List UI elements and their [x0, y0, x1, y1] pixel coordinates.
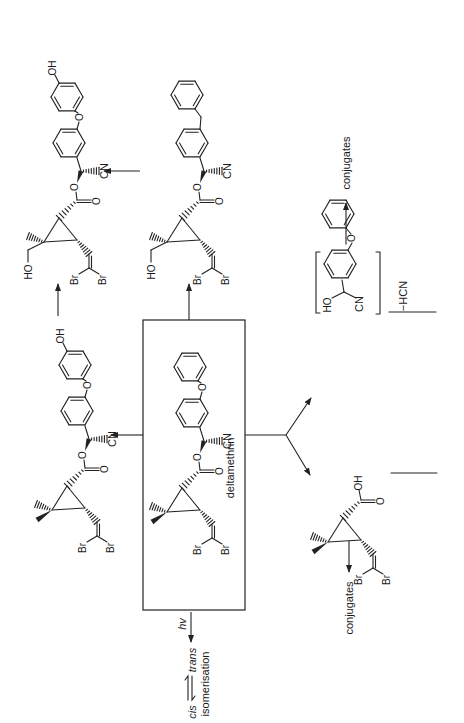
cyclopropane-bond	[167, 240, 200, 242]
aromatic-bond	[193, 95, 199, 106]
ether-bond	[346, 228, 351, 234]
bond	[61, 397, 69, 411]
bond	[348, 264, 356, 278]
vinyl-hashed-bond	[201, 241, 215, 256]
methylene-bond	[195, 109, 201, 117]
hash	[362, 541, 364, 542]
bond	[346, 214, 354, 228]
benzene-ring-2	[322, 200, 354, 228]
bond	[77, 143, 85, 157]
hash	[83, 248, 87, 252]
bond	[85, 411, 93, 425]
hash	[86, 509, 88, 510]
hash	[70, 479, 74, 483]
hash	[194, 474, 196, 476]
arrow-to-cyanohydrin	[286, 398, 311, 435]
metabolic-pathway-diagram: OBrBrOCNO deltamethrin OBrBrOCNOOH OHOBr…	[0, 0, 464, 723]
hash	[82, 470, 83, 471]
hash	[152, 504, 154, 510]
c-br-bond	[97, 536, 107, 542]
hash	[191, 206, 194, 209]
bond	[59, 351, 67, 365]
alpha-wedge-bond	[200, 170, 206, 183]
hash	[36, 238, 37, 242]
alpha-wedge-bond	[77, 170, 83, 183]
hash	[150, 502, 153, 509]
bond	[171, 81, 179, 95]
bracket-left	[316, 252, 320, 313]
cyclopropane-bond	[167, 218, 182, 242]
bond	[200, 399, 208, 413]
acid-hashed-bond	[340, 502, 359, 521]
cyclopropane-bond	[343, 518, 361, 540]
benzene-ring-2	[51, 83, 83, 111]
methyl-wedge-bond	[36, 510, 52, 522]
bond	[198, 367, 206, 381]
arrow-to-acid	[286, 435, 310, 475]
methyl-wedge-bond	[312, 542, 328, 554]
ester-hashed-bond	[64, 470, 83, 489]
bond	[176, 143, 184, 157]
hash	[352, 506, 355, 509]
hash	[157, 506, 159, 511]
aromatic-bond	[75, 143, 81, 154]
hash	[343, 513, 348, 518]
bromine-label: Br	[220, 274, 231, 285]
aromatic-bond	[65, 411, 71, 422]
hash	[37, 502, 39, 508]
bromine-label: Br	[97, 274, 108, 285]
bond	[83, 351, 91, 365]
hash	[363, 543, 365, 545]
methyl-hashed-bond	[311, 532, 326, 542]
methyl-hashed-bond	[27, 232, 42, 242]
cyclopropane-bond	[52, 486, 67, 510]
hash	[197, 472, 198, 473]
hash	[68, 206, 71, 209]
c-br-bond	[202, 268, 212, 274]
ether-oxygen-label: O	[197, 383, 208, 391]
hash	[89, 513, 92, 516]
hash	[35, 500, 38, 507]
aromatic-bond	[180, 413, 186, 424]
cyano-hashed-bond	[92, 435, 107, 443]
c-br-bond	[79, 268, 89, 274]
ether-bond	[348, 243, 352, 250]
hash	[182, 483, 187, 488]
cyano-label: CN	[106, 431, 118, 447]
cyclopropane-bond	[67, 486, 85, 508]
hash	[71, 204, 73, 206]
ether-oxygen-label: O	[82, 381, 93, 389]
hash	[188, 479, 191, 482]
hash	[349, 509, 352, 512]
benzene-ring-1	[53, 129, 85, 157]
aromatic-bond	[55, 97, 61, 108]
hydroxymethyl-label: HO	[23, 264, 34, 279]
hash	[201, 241, 203, 242]
benzene-ring-2	[174, 353, 206, 381]
hash	[27, 232, 30, 239]
hash	[179, 485, 184, 490]
ester-bond	[199, 462, 200, 470]
vinyl-hashed-bond	[201, 511, 215, 526]
bromine-label: Br	[192, 274, 203, 285]
hash	[67, 481, 72, 486]
c-br-bond	[212, 268, 222, 274]
ether-bond	[75, 111, 78, 113]
bromine-label: Br	[220, 544, 231, 555]
bracket-right	[376, 252, 380, 314]
aromatic-bond	[198, 413, 204, 424]
bond	[53, 129, 61, 143]
bond	[51, 83, 59, 97]
hash	[355, 504, 357, 506]
ether-bond	[83, 379, 86, 381]
ester-oxygen-label: O	[77, 451, 88, 459]
hydroxyl-label: OH	[55, 329, 66, 344]
hash	[202, 243, 204, 245]
hash	[49, 508, 50, 510]
hash	[152, 234, 154, 240]
alpha-wedge-bond	[85, 438, 91, 451]
cyclopropane-bond	[328, 540, 361, 542]
carbonyl-oxygen-label: O	[375, 497, 386, 505]
trans-label: trans	[186, 647, 198, 672]
c-br-bond	[373, 568, 383, 574]
